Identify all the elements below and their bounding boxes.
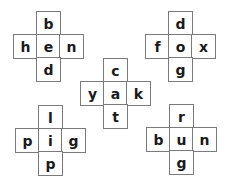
- letter-cell-bottom: g: [169, 150, 194, 175]
- letter-cell-left: y: [80, 81, 105, 106]
- letter-cell-top: b: [36, 11, 61, 36]
- letter-cell-left: b: [146, 127, 171, 152]
- letter-cell-center: u: [169, 127, 194, 152]
- letter-cell-left: f: [145, 34, 170, 59]
- letter-cell-top: c: [103, 58, 128, 83]
- letter-cell-center: a: [103, 81, 128, 106]
- letter-cell-center: o: [168, 34, 193, 59]
- letter-cell-top: r: [169, 104, 194, 129]
- letter-cell-bottom: d: [36, 57, 61, 82]
- letter-cell-right: n: [59, 34, 84, 59]
- letter-cell-bottom: g: [168, 57, 193, 82]
- letter-cell-left: h: [13, 34, 38, 59]
- word-cross-bun: r b u n g: [146, 104, 218, 176]
- letter-cell-center: e: [36, 34, 61, 59]
- word-cross-pig: l p i g p: [15, 105, 87, 177]
- letter-cell-bottom: p: [38, 151, 63, 176]
- letter-cell-right: x: [191, 34, 216, 59]
- word-cross-fox: d f o x g: [145, 11, 217, 83]
- word-cross-hen: b h e n d: [13, 11, 85, 83]
- letter-cell-right: g: [61, 128, 86, 153]
- letter-cell-left: p: [15, 128, 40, 153]
- letter-cell-right: k: [126, 81, 151, 106]
- letter-cell-right: n: [192, 127, 217, 152]
- letter-cell-bottom: t: [103, 104, 128, 129]
- letter-cell-top: l: [38, 105, 63, 130]
- letter-cell-center: i: [38, 128, 63, 153]
- letter-cell-top: d: [168, 11, 193, 36]
- word-cross-yak: c y a k t: [80, 58, 152, 130]
